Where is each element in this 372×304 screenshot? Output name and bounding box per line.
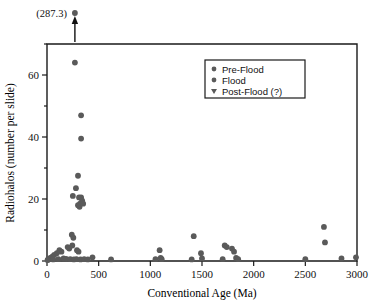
data-point [108,257,114,263]
plot-axes [47,44,357,261]
data-point [70,193,76,199]
data-point [73,185,79,191]
data-point [322,240,328,246]
data-points [45,60,359,263]
data-point [235,256,241,262]
data-point [70,235,76,241]
data-point [66,246,72,252]
legend-item-label: Pre-Flood [222,64,264,75]
x-tick-label: 2500 [294,268,317,280]
x-tick-label: 1000 [139,268,162,280]
plot-frame [47,44,357,261]
data-point [157,247,163,253]
radiohalos-scatter-figure: 0500100015002000250030000204060 (287.3) … [0,0,372,304]
y-tick-label: 0 [34,255,40,267]
annotation-label: (287.3) [36,8,67,20]
x-tick-label: 1500 [191,268,214,280]
offscale-data-point [72,10,78,16]
data-point [339,256,345,262]
data-point [55,256,61,262]
data-point [353,254,359,260]
data-point [189,257,195,263]
chart-canvas: 0500100015002000250030000204060 (287.3) … [0,0,372,304]
x-tick-label: 2000 [243,268,266,280]
y-axis-title: Radiohalos (number per slide) [4,83,17,223]
data-point [50,257,56,263]
data-point [231,249,237,255]
data-point [220,256,226,262]
data-point [224,244,230,250]
data-point [198,250,204,256]
data-point [153,256,159,262]
legend-marker-circle-icon [212,78,217,83]
data-point [199,256,205,262]
data-point [90,254,96,260]
data-point [45,257,51,263]
axis-ticks [42,44,357,266]
data-point [321,224,327,230]
data-point [80,201,86,207]
data-point [78,136,84,142]
x-axis-title: Conventional Age (Ma) [147,287,256,300]
annotation-arrow-head [72,16,78,24]
x-tick-label: 0 [44,268,50,280]
offscale-annotation: (287.3) [36,8,78,42]
x-tick-label: 500 [90,268,107,280]
y-tick-label: 20 [28,193,40,205]
data-point [78,112,84,118]
y-tick-label: 40 [28,131,40,143]
legend-marker-circle-icon [212,67,217,72]
data-point [75,202,81,208]
data-point [72,60,78,66]
data-point [75,173,81,179]
legend-item-label: Post-Flood (?) [222,86,282,97]
y-tick-label: 60 [28,69,40,81]
data-point [302,256,308,262]
data-point [159,256,165,262]
chart-legend: Pre-FloodFloodPost-Flood (?) [205,60,305,98]
data-point [191,233,197,239]
x-tick-label: 3000 [346,268,369,280]
legend-item-label: Flood [222,75,246,86]
data-point [76,249,82,255]
